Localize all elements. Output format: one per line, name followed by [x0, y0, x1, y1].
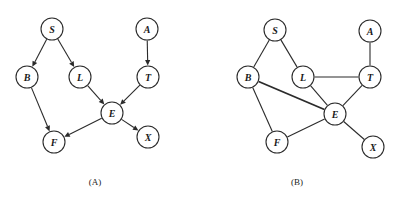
figure-root: SABLTEFX (A) SABLTEFX (B) [0, 0, 401, 202]
node-S: S [41, 18, 63, 40]
node-T: T [359, 66, 381, 88]
edge-E-X [122, 119, 134, 127]
node-X: X [362, 136, 384, 158]
node-L: L [69, 66, 91, 88]
node-label-X: X [369, 142, 377, 153]
panel-a-edges [31, 39, 150, 137]
edge-E-F [69, 118, 102, 134]
node-label-T: T [145, 72, 152, 83]
edge-B-F [31, 88, 47, 127]
panel-a: SABLTEFX (A) [0, 0, 200, 202]
edge-T-E [124, 85, 140, 101]
node-label-E: E [331, 109, 339, 120]
node-label-X: X [144, 132, 152, 143]
node-label-A: A [366, 26, 374, 37]
edge-S-L [281, 40, 297, 67]
node-B: B [237, 66, 259, 88]
node-B: B [16, 66, 38, 88]
node-label-F: F [273, 137, 281, 148]
node-E: E [324, 103, 346, 125]
edge-S-B [35, 39, 47, 62]
arrowhead-A-T [145, 60, 150, 66]
node-label-B: B [244, 72, 252, 83]
node-label-E: E [108, 108, 116, 119]
node-A: A [136, 18, 158, 40]
panel-a-graph: SABLTEFX (A) [0, 0, 200, 202]
panel-b-caption: (B) [291, 177, 303, 187]
edge-L-E [88, 86, 101, 101]
node-label-F: F [50, 137, 58, 148]
edge-S-B [254, 40, 270, 67]
edge-E-X [344, 122, 365, 140]
node-F: F [43, 131, 65, 153]
node-X: X [137, 126, 159, 148]
node-L: L [292, 66, 314, 88]
panel-b: SABLTEFX (B) [200, 0, 401, 202]
node-A: A [359, 20, 381, 42]
edge-L-E [311, 86, 328, 106]
node-label-B: B [23, 72, 31, 83]
arrowhead-E-X [132, 125, 138, 130]
edge-T-E [343, 85, 362, 105]
panel-b-graph: SABLTEFX (B) [200, 0, 401, 202]
node-label-S: S [49, 24, 55, 35]
panel-b-edges [253, 40, 370, 140]
node-label-A: A [143, 24, 151, 35]
node-label-S: S [272, 25, 278, 36]
node-label-T: T [367, 72, 374, 83]
node-T: T [137, 66, 159, 88]
panel-a-caption: (A) [89, 177, 102, 187]
node-label-L: L [299, 72, 306, 83]
node-label-L: L [76, 72, 83, 83]
edge-S-L [58, 39, 72, 62]
edge-B-E [259, 82, 325, 110]
edge-B-F [253, 88, 273, 132]
panel-a-nodes: SABLTEFX [16, 18, 159, 153]
edge-E-F [287, 119, 324, 137]
node-E: E [101, 102, 123, 124]
node-F: F [266, 131, 288, 153]
node-S: S [264, 19, 286, 41]
